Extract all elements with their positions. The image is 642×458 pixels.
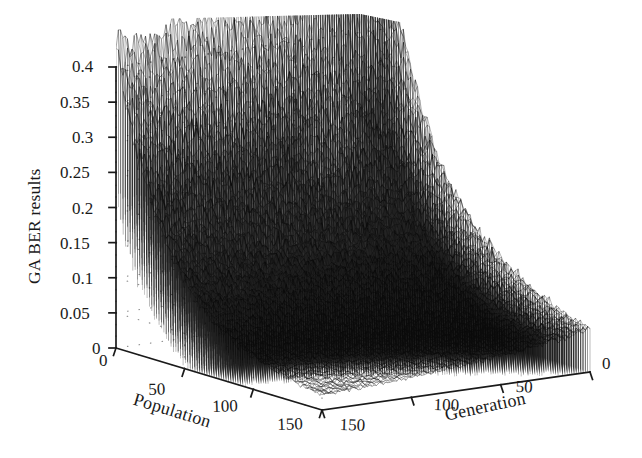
z-tick-01: 0.1 [72,270,93,287]
z-tick-04: 0.4 [72,58,93,75]
y-tick-150: 150 [339,416,365,434]
y-tick-0: 0 [602,355,611,372]
x-tick-100: 100 [212,397,238,415]
z-tick-015: 0.15 [60,235,90,252]
figure-canvas: GA BER results 0 0.05 0.1 0.15 0.2 0.25 … [0,0,642,458]
z-tick-005: 0.05 [60,305,90,322]
x-tick-0: 0 [99,352,108,369]
surface-mesh [116,0,590,395]
z-tick-025: 0.25 [60,164,90,181]
surface-plot-svg [0,0,642,458]
x-tick-150: 150 [277,415,303,433]
z-axis-label: GA BER results [24,168,45,284]
z-tick-03: 0.3 [72,129,93,146]
z-tick-02: 0.2 [72,200,93,217]
z-tick-035: 0.35 [60,94,90,111]
